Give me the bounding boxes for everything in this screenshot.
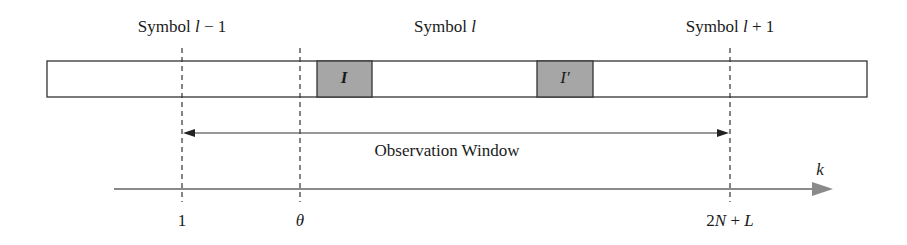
block-I-prime-label: I′	[560, 68, 569, 88]
symbol-stream-bar	[47, 61, 867, 97]
arrowhead-right-icon	[717, 129, 729, 137]
axis-arrowhead-icon	[812, 182, 833, 196]
arrowhead-left-icon	[183, 129, 195, 137]
tick-label-end: 2N + L	[706, 211, 753, 231]
observation-window-label: Observation Window	[375, 141, 520, 161]
symbol-label-prev: Symbol l − 1	[138, 17, 226, 37]
axis-variable-label: k	[816, 160, 824, 180]
tick-label-theta: θ	[296, 211, 304, 231]
block-I-label: I	[341, 68, 348, 88]
symbol-label-next: Symbol l + 1	[686, 17, 774, 37]
tick-label-1: 1	[178, 211, 187, 231]
symbol-label-current: Symbol l	[414, 17, 476, 37]
